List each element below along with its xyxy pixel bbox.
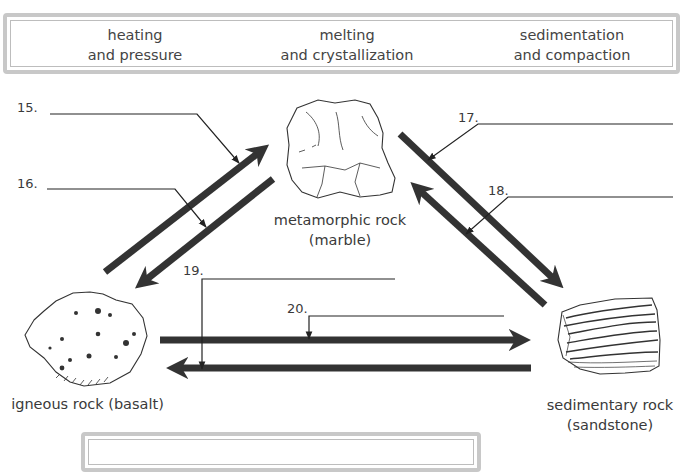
sandstone-rock-icon: [558, 298, 660, 374]
leader-line-15[interactable]: [50, 114, 239, 163]
marble-rock-icon: [287, 100, 395, 198]
question-number-15: 15.: [17, 100, 38, 115]
leader-line-19[interactable]: [202, 279, 395, 369]
sedimentary-rock-example: (sandstone): [530, 415, 686, 435]
question-number-19: 19.: [183, 263, 204, 278]
metamorphic-rock-label: metamorphic rock (marble): [250, 210, 430, 250]
sedimentary-rock-name: sedimentary rock: [530, 395, 686, 415]
metamorphic-rock-example: (marble): [250, 230, 430, 250]
basalt-rock-icon: [25, 292, 147, 386]
leader-line-20[interactable]: [309, 316, 504, 339]
arrow-metamorphic-to-sedimentary: [400, 134, 557, 282]
question-number-17: 17.: [458, 110, 479, 125]
leader-line-17[interactable]: [428, 124, 673, 160]
question-number-20: 20.: [287, 301, 308, 316]
sedimentary-rock-label: sedimentary rock (sandstone): [530, 395, 686, 435]
question-number-18: 18.: [488, 183, 509, 198]
answer-box-inner-border: [88, 439, 474, 465]
igneous-rock-name: igneous rock (basalt): [0, 394, 175, 414]
igneous-rock-label: igneous rock (basalt): [0, 394, 175, 414]
bottom-answer-box: [81, 432, 481, 472]
question-number-16: 16.: [17, 176, 38, 191]
metamorphic-rock-name: metamorphic rock: [250, 210, 430, 230]
